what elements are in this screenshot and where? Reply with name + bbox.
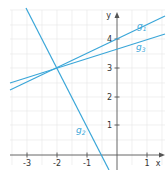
x-tick-label: -2 (53, 159, 61, 168)
label-g2: g2 (76, 125, 86, 136)
y-axis-label: y (106, 11, 111, 20)
coordinate-plot: -3 -2 -1 1 x 1 2 3 4 y g1 g3 g2 (0, 0, 167, 170)
x-axis (10, 153, 165, 158)
y-axis (115, 12, 120, 170)
x-tick-label: 1 (144, 159, 149, 168)
y-tick-label: 1 (107, 121, 112, 130)
grid (10, 10, 165, 165)
line-g3 (10, 34, 165, 83)
y-tick-label: 2 (107, 93, 112, 102)
line-g2 (26, 8, 109, 170)
y-tick-label: 3 (107, 64, 112, 73)
label-g1: g1 (137, 21, 147, 32)
x-tick-label: -3 (23, 159, 31, 168)
x-tick-label: -1 (83, 159, 91, 168)
x-axis-label: x (156, 159, 161, 168)
label-g3: g3 (136, 42, 146, 53)
